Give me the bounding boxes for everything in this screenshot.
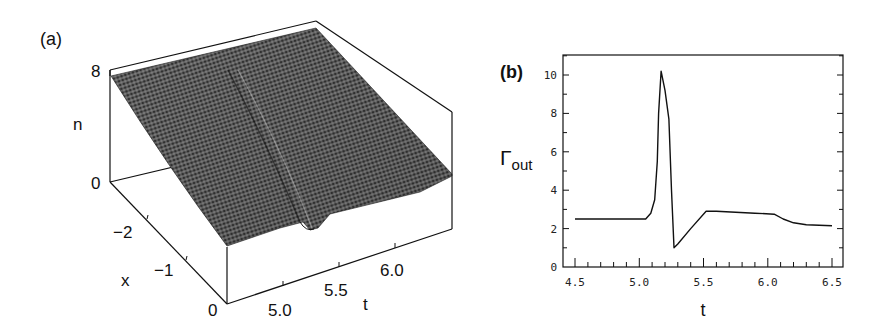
panel-b-frame: [563, 55, 843, 267]
y-tick-4: 4: [550, 184, 557, 197]
y-axis-label-sub: out: [512, 156, 534, 173]
x-tick-0: 0: [208, 301, 217, 320]
panel-a: (a) 8 0 n: [40, 21, 452, 320]
gamma-out-curve: [575, 71, 832, 248]
t-tick-6.0: 6.0: [380, 261, 404, 280]
panel-b: (b): [500, 55, 843, 320]
y-axis-label-b: Γout: [500, 146, 533, 173]
y-axis-label-main: Γ: [500, 146, 512, 169]
z-tick-0: 0: [91, 174, 100, 193]
panel-a-label: (a): [40, 29, 62, 49]
x-tick-neg2: −2: [113, 223, 132, 242]
x-ticks: [575, 258, 832, 267]
z-axis-label: n: [73, 115, 82, 134]
x-tick-neg1: −1: [154, 261, 173, 280]
figure: (a) 8 0 n: [0, 0, 886, 335]
t-axis-label: t: [363, 295, 368, 314]
y-tick-8: 8: [550, 107, 557, 120]
x-tick-5.0: 5.0: [629, 276, 649, 289]
x-axis-label-b: t: [700, 300, 705, 320]
y-tick-labels: 0 2 4 6 8 10: [544, 69, 558, 274]
y-tick-6: 6: [550, 146, 557, 159]
z-tick-8: 8: [91, 62, 100, 81]
y-tick-2: 2: [550, 223, 557, 236]
x-axis-label: x: [121, 271, 130, 290]
x-tick-4.5: 4.5: [565, 276, 585, 289]
x-tick-5.5: 5.5: [694, 276, 714, 289]
x-tick-6.0: 6.0: [758, 276, 778, 289]
t-tick-5.5: 5.5: [324, 281, 348, 300]
surface-mesh: [111, 28, 452, 246]
x-tick-6.5: 6.5: [822, 276, 842, 289]
y-tick-0: 0: [550, 261, 557, 274]
t-tick-5.0: 5.0: [268, 301, 292, 320]
panel-b-label: (b): [500, 62, 523, 82]
y-tick-10: 10: [544, 69, 557, 82]
x-tick-labels: 4.5 5.0 5.5 6.0 6.5: [565, 276, 842, 289]
